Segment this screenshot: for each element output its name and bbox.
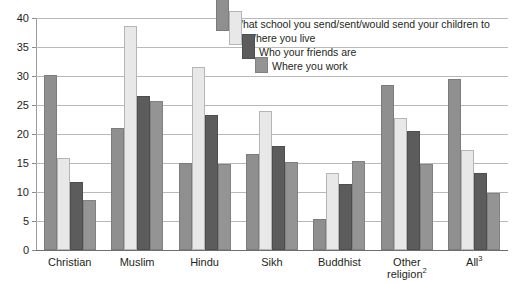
bar — [150, 101, 163, 250]
x-axis-category-label: Otherreligion2 — [373, 256, 440, 280]
bar — [285, 162, 298, 250]
bar — [394, 118, 407, 250]
bar — [192, 67, 205, 250]
x-axis-category-label: All3 — [441, 256, 508, 268]
bar — [474, 173, 487, 250]
y-tick-label: 30 — [0, 71, 29, 82]
bar — [407, 131, 420, 250]
legend-swatch — [242, 34, 255, 59]
bar — [205, 115, 218, 250]
legend-label: Who your friends are — [259, 45, 356, 59]
y-tick-label: 10 — [0, 187, 29, 198]
bar — [259, 111, 272, 250]
x-axis-category-label: Hindu — [171, 256, 238, 268]
bar — [326, 173, 339, 250]
x-axis-category-label: Muslim — [103, 256, 170, 268]
legend-item: Where you work — [216, 59, 511, 73]
legend-label: Where you live — [246, 31, 315, 45]
bar — [70, 182, 83, 250]
bar — [352, 161, 365, 250]
bar-group — [36, 18, 103, 250]
x-axis-category-label: Sikh — [238, 256, 305, 268]
y-tick-label: 25 — [0, 100, 29, 111]
bar — [124, 26, 137, 250]
bar — [83, 200, 96, 250]
bar — [44, 75, 57, 250]
x-axis-category-label: Christian — [36, 256, 103, 268]
legend-item: What school you send/sent/would send you… — [216, 17, 511, 31]
bar — [313, 219, 326, 250]
bar — [487, 193, 500, 250]
chart-legend: What school you send/sent/would send you… — [216, 17, 511, 73]
bar — [420, 164, 433, 250]
legend-label: What school you send/sent/would send you… — [233, 17, 490, 31]
y-tick-label: 0 — [0, 245, 29, 256]
bar-chart: 0510152025303540 ChristianMuslimHinduSik… — [0, 0, 517, 285]
bar — [448, 79, 461, 250]
bar — [218, 164, 231, 250]
legend-label: Where you work — [272, 59, 348, 73]
legend-swatch — [216, 0, 229, 31]
bar — [57, 158, 70, 250]
legend-item: Where you live — [216, 31, 511, 45]
y-tick-label: 40 — [0, 13, 29, 24]
y-tick-label: 20 — [0, 129, 29, 140]
bar — [339, 184, 352, 250]
x-axis-category-label: Buddhist — [306, 256, 373, 268]
bar — [111, 128, 124, 250]
bar — [246, 154, 259, 250]
bar — [381, 85, 394, 250]
y-tick-label: 35 — [0, 42, 29, 53]
bar-group — [103, 18, 170, 250]
legend-swatch — [255, 57, 268, 73]
bar — [461, 150, 474, 250]
legend-swatch — [229, 11, 242, 45]
y-tick-label: 15 — [0, 158, 29, 169]
bar — [272, 146, 285, 250]
bar — [179, 163, 192, 250]
y-tick-label: 5 — [0, 216, 29, 227]
bar — [137, 96, 150, 250]
axis-baseline — [36, 250, 508, 251]
